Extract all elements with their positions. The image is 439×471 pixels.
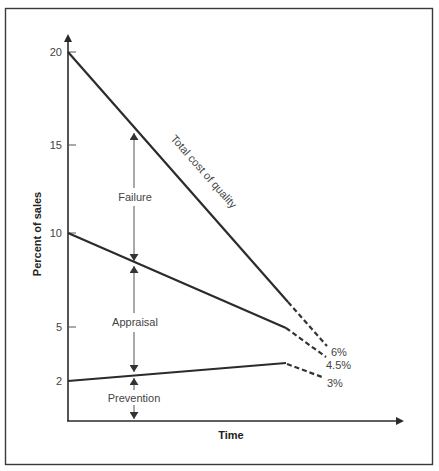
prevention-line (68, 363, 286, 381)
prevention-end-value: 3% (327, 377, 343, 389)
cost-of-quality-chart: 20 15 10 5 2 Percent of sales Time Total… (0, 0, 439, 471)
y-tick-label-5: 5 (56, 321, 62, 333)
failure-dimension: Failure (118, 133, 152, 261)
y-tick-label-15: 15 (50, 139, 62, 151)
prevention-projection (287, 364, 322, 377)
total-cost-projection (288, 302, 327, 346)
y-ticks: 20 15 10 5 2 (50, 46, 76, 387)
total-end-value: 6% (331, 346, 347, 358)
appraisal-end-value: 4.5% (326, 359, 351, 371)
total-cost-label: Total cost of quality (169, 132, 240, 210)
y-axis-label: Percent of sales (31, 192, 43, 276)
failure-label: Failure (118, 191, 152, 203)
y-tick-label-20: 20 (50, 46, 62, 58)
y-tick-label-10: 10 (50, 227, 62, 239)
appraisal-projection (286, 328, 326, 357)
chart-frame (6, 9, 433, 465)
x-axis-label: Time (218, 429, 243, 441)
prevention-label: Prevention (108, 392, 161, 404)
y-tick-label-2: 2 (56, 375, 62, 387)
appraisal-dimension: Appraisal (112, 266, 158, 372)
total-cost-line (68, 52, 288, 302)
prevention-dimension: Prevention (108, 378, 161, 419)
appraisal-line (68, 233, 286, 328)
appraisal-label: Appraisal (112, 316, 158, 328)
